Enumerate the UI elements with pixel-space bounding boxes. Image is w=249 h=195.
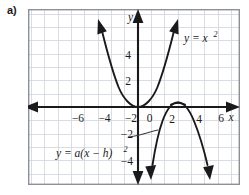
part-label: a) [7,4,16,16]
x-tick-label-minus6: −6 [72,112,84,124]
x-tick-label-2: 2 [169,113,175,125]
curve1-label-text: y = x [183,32,209,45]
y-axis-label: y [127,11,134,24]
y-tick-label-4: 4 [125,49,131,61]
x-tick-label-4: 4 [196,113,202,125]
x-axis-label: x [227,111,234,123]
coordinate-plot: −6 −4 −2 0 2 4 6 2 4 −2 −4 x y y = x 2 [28,9,240,185]
y-tick-label-minus2: −2 [121,128,133,140]
curve1-label-exponent: 2 [214,30,218,39]
x-tick-label-zero: 0 [147,112,153,124]
x-tick-label-minus2: −2 [125,112,137,124]
curve2-label-exponent: 2 [124,145,128,154]
x-tick-label-minus4: −4 [98,112,110,124]
y-tick-label-2: 2 [125,75,131,87]
plot-svg: −6 −4 −2 0 2 4 6 2 4 −2 −4 x y y = x 2 [28,9,240,185]
x-tick-label-6: 6 [218,112,224,124]
curve2-label-text: y = a(x − h) [55,147,113,160]
figure-container: a) [0,0,249,195]
y-tick-label-minus4: −4 [121,155,133,167]
